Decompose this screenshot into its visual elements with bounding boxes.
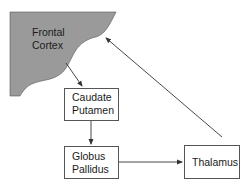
caudate-putamen-node: Caudate Putamen [65,89,119,121]
edge-cortex-to-caudate-arrow [66,63,82,86]
caudate-putamen-label-line2: Putamen [72,104,114,116]
caudate-putamen-label-line1: Caudate [72,91,112,103]
globus-pallidus-node: Globus Pallidus [65,147,119,179]
edge-thalamus-to-cortex-arrow [106,38,222,137]
frontal-cortex-label-line2: Cortex [32,39,64,51]
frontal-cortex-shape [10,12,116,96]
thalamus-label: Thalamus [192,156,238,168]
thalamus-node: Thalamus [185,146,240,179]
frontal-cortex-label-line1: Frontal [32,26,65,38]
basal-ganglia-loop-diagram: Frontal Cortex Caudate Putamen Globus Pa… [0,0,252,188]
globus-pallidus-label-line1: Globus [72,150,105,162]
globus-pallidus-label-line2: Pallidus [72,163,109,175]
frontal-cortex-node: Frontal Cortex [10,12,116,96]
